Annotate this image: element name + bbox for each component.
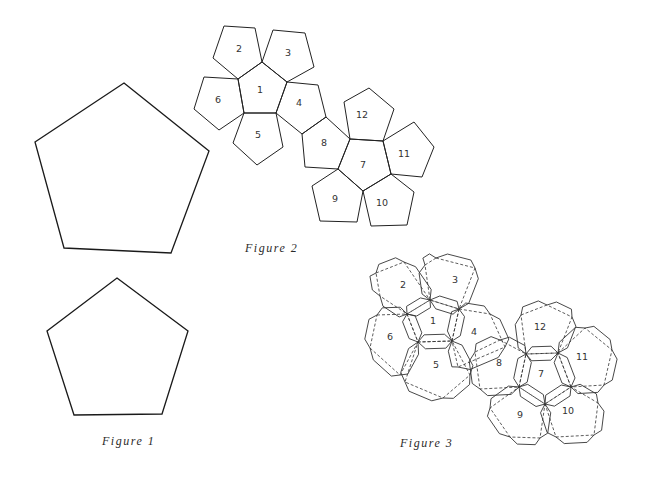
fold-tab — [401, 342, 418, 382]
fold-face-label-10: 10 — [562, 405, 574, 416]
diagram-canvas: 123456789101112 123456789101112 — [0, 0, 650, 477]
face-label-7: 7 — [360, 159, 366, 170]
fold-face-3 — [425, 258, 475, 309]
fold-tab — [545, 385, 571, 404]
face-12 — [344, 88, 394, 141]
face-label-10: 10 — [376, 197, 388, 208]
fold-tab — [459, 268, 478, 309]
figure2-caption: Figure 2 — [245, 241, 298, 256]
fold-tab — [547, 302, 572, 317]
face-10 — [363, 174, 414, 226]
face-label-12: 12 — [356, 109, 368, 120]
fold-tab — [521, 301, 547, 315]
fold-tab — [430, 300, 459, 314]
large-pentagon-template — [35, 83, 209, 253]
face-label-9: 9 — [332, 193, 338, 204]
fold-tab — [558, 353, 575, 387]
fold-tab — [436, 254, 475, 268]
fold-tab — [452, 341, 473, 375]
figure2-dodecahedron-net: 123456789101112 — [194, 26, 434, 226]
fold-tab — [490, 314, 509, 347]
face-label-6: 6 — [215, 94, 221, 105]
face-label-8: 8 — [321, 137, 327, 148]
fold-face-label-8: 8 — [496, 357, 502, 368]
fold-tab — [540, 404, 551, 438]
figure1-group — [35, 83, 209, 415]
fold-face-label-2: 2 — [400, 279, 406, 290]
fold-tab — [407, 300, 430, 316]
face-label-2: 2 — [236, 43, 242, 54]
face-label-11: 11 — [398, 148, 410, 159]
face-label-1: 1 — [257, 84, 263, 95]
fold-face-label-11: 11 — [576, 351, 588, 362]
figure1-caption: Figure 1 — [102, 434, 155, 449]
fold-face-label-4: 4 — [471, 326, 477, 337]
fold-face-label-9: 9 — [517, 409, 523, 420]
figure3-net-with-tabs: 123456789101112 — [365, 254, 617, 445]
fold-tab — [510, 437, 540, 445]
fold-face-label-1: 1 — [430, 315, 436, 326]
face-label-3: 3 — [285, 47, 291, 58]
fold-tab — [376, 258, 404, 273]
fold-tab — [594, 403, 604, 435]
fold-tab — [475, 337, 500, 352]
fold-face-label-12: 12 — [534, 321, 546, 332]
fold-tab — [370, 273, 380, 296]
fold-face-label-3: 3 — [452, 274, 458, 285]
fold-tab — [365, 315, 377, 348]
fold-tab — [556, 435, 594, 444]
face-label-5: 5 — [255, 129, 261, 140]
fold-face-label-7: 7 — [538, 368, 544, 379]
fold-tab — [515, 315, 526, 354]
face-label-4: 4 — [296, 97, 302, 108]
fold-tab — [469, 352, 480, 389]
fold-tab — [407, 298, 430, 314]
small-pentagon-template — [47, 278, 188, 415]
fold-tab — [571, 385, 604, 394]
fold-tab — [519, 354, 531, 387]
fold-tab — [459, 303, 490, 314]
fold-face-label-6: 6 — [387, 331, 393, 342]
fold-face-label-5: 5 — [433, 359, 439, 370]
fold-tab — [419, 265, 430, 300]
fold-tab — [554, 353, 571, 387]
figure3-caption: Figure 3 — [400, 436, 453, 451]
fold-tab — [418, 334, 452, 342]
face-4 — [276, 82, 326, 134]
